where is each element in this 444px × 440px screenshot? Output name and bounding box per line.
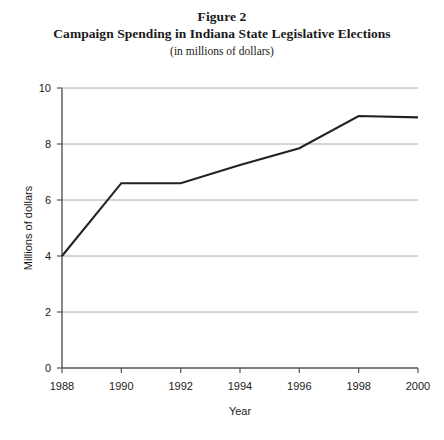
x-axis-tick-label: 2000 <box>406 380 430 392</box>
chart-gridlines <box>62 144 418 312</box>
x-axis-tick-label: 1992 <box>168 380 192 392</box>
x-axis-tick-label: 1994 <box>228 380 252 392</box>
y-axis-tick-labels: 0246810 <box>39 82 51 374</box>
x-axis-tick-label: 1990 <box>109 380 133 392</box>
x-axis-tick-label: 1988 <box>50 380 74 392</box>
chart-container: 0246810 1988199019921994199619982000 Yea… <box>0 0 444 440</box>
y-axis-tick-label: 10 <box>39 82 51 94</box>
x-axis-label: Year <box>229 405 252 417</box>
y-axis-tick-label: 8 <box>45 138 51 150</box>
x-axis-tick-labels: 1988199019921994199619982000 <box>50 380 430 392</box>
x-axis-ticks <box>62 368 418 373</box>
line-chart: 0246810 1988199019921994199619982000 Yea… <box>0 0 444 440</box>
y-axis-tick-label: 2 <box>45 306 51 318</box>
y-axis-tick-label: 6 <box>45 194 51 206</box>
x-axis-tick-label: 1998 <box>346 380 370 392</box>
y-axis-label: Millions of dollars <box>22 185 34 270</box>
data-series-line <box>62 116 418 256</box>
y-axis-tick-label: 4 <box>45 250 51 262</box>
y-axis-ticks <box>57 88 62 368</box>
x-axis-tick-label: 1996 <box>287 380 311 392</box>
y-axis-tick-label: 0 <box>45 362 51 374</box>
